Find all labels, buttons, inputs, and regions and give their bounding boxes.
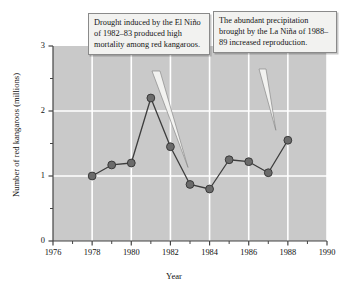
y-tick-label: 2 [21, 106, 45, 115]
x-tick-label: 1982 [150, 248, 190, 257]
x-tick-label: 1990 [307, 248, 347, 257]
y-axis-title: Number of red kangaroos (millions) [11, 35, 21, 235]
annotation-precipitation-text: The abundant precipitation brought by th… [219, 16, 328, 47]
x-tick-label: 1976 [33, 248, 73, 257]
x-tick-label: 1984 [190, 248, 230, 257]
annotation-callout-precipitation: The abundant precipitation brought by th… [213, 11, 337, 53]
kangaroo-population-chart: Drought induced by the El Niño of 1982–8… [0, 0, 348, 292]
y-tick-label: 1 [21, 171, 45, 180]
y-tick-label: 0 [21, 236, 45, 245]
x-tick-label: 1978 [72, 248, 112, 257]
annotation-callout-drought: Drought induced by the El Niño of 1982–8… [88, 13, 210, 55]
x-tick-label: 1980 [111, 248, 151, 257]
x-tick-label: 1986 [229, 248, 269, 257]
y-tick-label: 3 [21, 41, 45, 50]
annotation-drought-text: Drought induced by the El Niño of 1982–8… [94, 18, 201, 49]
x-axis-title: Year [0, 271, 348, 281]
x-tick-label: 1988 [268, 248, 308, 257]
